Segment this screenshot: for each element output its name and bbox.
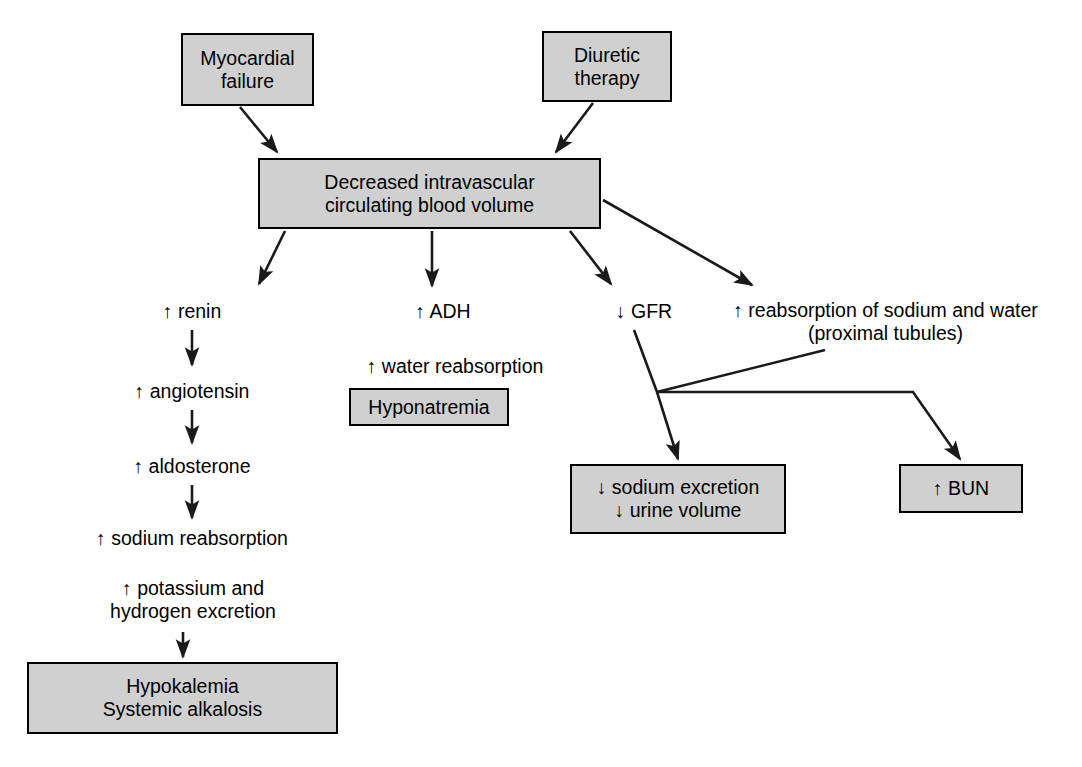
- node-reabsorption-sodium-water: ↑ reabsorption of sodium and water (prox…: [718, 296, 1053, 348]
- edge-reabsorption-to-junction: [657, 350, 825, 392]
- edge-volume-to-reabsorption: [603, 200, 752, 285]
- node-hyponatremia[interactable]: Hyponatremia: [349, 388, 509, 426]
- node-myocardial-failure[interactable]: Myocardial failure: [181, 33, 314, 106]
- node-angiotensin: ↑ angiotensin: [106, 378, 278, 404]
- edge-junction-to-bun: [657, 392, 960, 459]
- node-sodium-urine-decrease[interactable]: ↓ sodium excretion ↓ urine volume: [570, 464, 786, 534]
- edge-gfr-to-sodium-urine: [634, 330, 678, 459]
- flowchart-canvas: Myocardial failure Diuretic therapy Decr…: [0, 0, 1082, 767]
- node-water-reabsorption: ↑ water reabsorption: [335, 353, 575, 379]
- edge-diuretic-to-volume: [556, 103, 593, 152]
- node-adh: ↑ ADH: [388, 298, 498, 324]
- edge-volume-to-renin: [259, 231, 285, 284]
- node-decreased-volume[interactable]: Decreased intravascular circulating bloo…: [258, 158, 601, 229]
- node-sodium-reabsorption: ↑ sodium reabsorption: [61, 525, 323, 551]
- node-aldosterone: ↑ aldosterone: [106, 453, 278, 479]
- node-hypokalemia-alkalosis[interactable]: Hypokalemia Systemic alkalosis: [27, 662, 338, 734]
- node-diuretic-therapy[interactable]: Diuretic therapy: [542, 31, 672, 102]
- edge-volume-to-gfr: [570, 231, 611, 284]
- node-gfr: ↓ GFR: [594, 298, 694, 324]
- node-renin: ↑ renin: [132, 298, 252, 324]
- node-bun[interactable]: ↑ BUN: [899, 464, 1023, 513]
- node-potassium-hydrogen-excretion: ↑ potassium and hydrogen excretion: [82, 574, 304, 626]
- edge-myocardial-to-volume: [240, 107, 277, 152]
